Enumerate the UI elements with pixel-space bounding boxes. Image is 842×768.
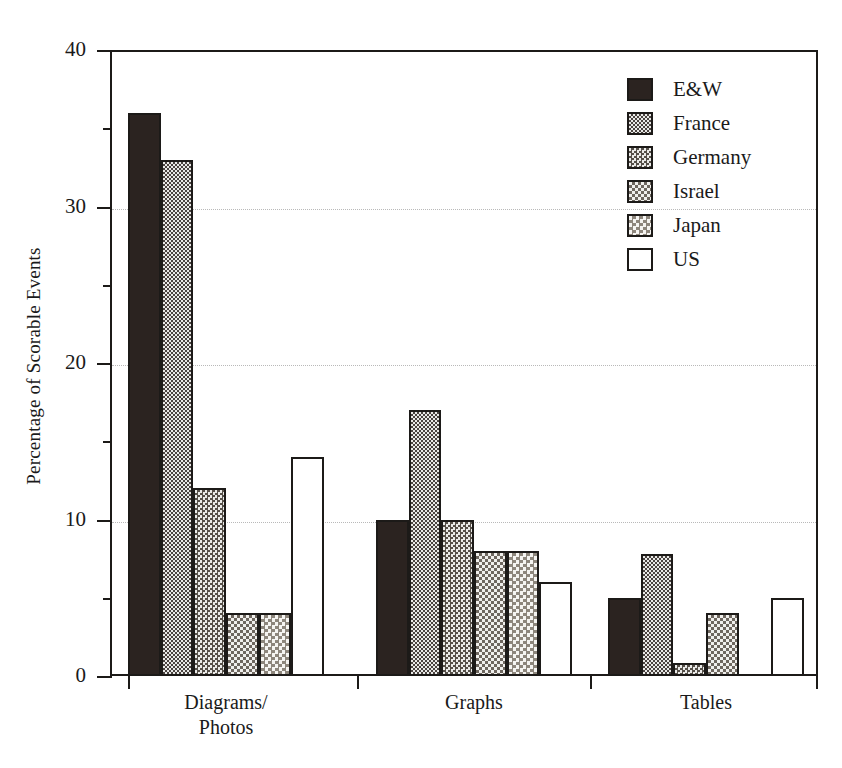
- legend-item-label: France: [673, 113, 730, 134]
- bar-israel-0: [226, 613, 259, 676]
- y-axis-tick-label: 30: [30, 196, 86, 217]
- x-axis-tick: [590, 676, 592, 689]
- x-axis-tick: [357, 676, 359, 689]
- x-axis-tick: [816, 676, 818, 689]
- bar-france-0: [161, 160, 194, 676]
- bar-germany-0: [193, 488, 226, 676]
- legend-item-japan[interactable]: Japan: [627, 208, 802, 242]
- legend-item-label: E&W: [673, 79, 722, 100]
- bar-e-w-2: [608, 598, 641, 676]
- bar-germany-2: [673, 663, 706, 676]
- y-axis-tick-label: 0: [30, 665, 86, 686]
- legend-swatch-icon: [627, 146, 653, 169]
- bar-france-2: [641, 554, 674, 676]
- legend-item-israel[interactable]: Israel: [627, 174, 802, 208]
- bar-israel-1: [474, 551, 507, 676]
- legend-swatch-icon: [627, 248, 653, 271]
- bar-japan-1: [507, 551, 540, 676]
- x-axis-group-label: Tables: [596, 690, 816, 715]
- bar-chart: Percentage of Scorable Events 010203040 …: [0, 0, 842, 768]
- bar-france-1: [409, 410, 442, 676]
- bar-israel-2: [706, 613, 739, 676]
- legend-item-label: Israel: [673, 181, 720, 202]
- bar-us-1: [539, 582, 572, 676]
- x-axis-group-label: Graphs: [364, 690, 584, 715]
- y-axis-tick-label: 20: [30, 352, 86, 373]
- legend: E&WFranceGermanyIsraelJapanUS: [627, 72, 802, 276]
- legend-item-label: Germany: [673, 147, 751, 168]
- x-axis-tick: [128, 676, 130, 689]
- y-axis-tick-label: 40: [30, 39, 86, 60]
- bar-e-w-0: [128, 113, 161, 676]
- bar-e-w-1: [376, 520, 409, 677]
- x-axis-group-label: Diagrams/ Photos: [116, 690, 336, 740]
- legend-swatch-icon: [627, 214, 653, 237]
- legend-swatch-icon: [627, 180, 653, 203]
- bar-us-2: [771, 598, 804, 676]
- legend-item-label: US: [673, 249, 700, 270]
- y-axis-tick-label: 10: [30, 509, 86, 530]
- y-axis-tick: [97, 676, 112, 678]
- bar-germany-1: [441, 520, 474, 677]
- legend-swatch-icon: [627, 78, 653, 101]
- bar-us-0: [291, 457, 324, 676]
- legend-item-france[interactable]: France: [627, 106, 802, 140]
- bar-japan-0: [259, 613, 292, 676]
- legend-item-e-w[interactable]: E&W: [627, 72, 802, 106]
- legend-item-us[interactable]: US: [627, 242, 802, 276]
- legend-item-label: Japan: [673, 215, 721, 236]
- legend-item-germany[interactable]: Germany: [627, 140, 802, 174]
- legend-swatch-icon: [627, 112, 653, 135]
